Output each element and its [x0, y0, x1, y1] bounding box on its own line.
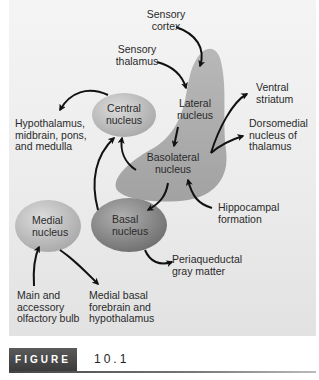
dorsomedial-label-line: thalamus — [249, 141, 308, 153]
sensory-cortex-label-line: Sensory — [138, 9, 194, 21]
sensory-thalamus-label-line: thalamus — [112, 56, 162, 68]
lateral-nucleus-label-line: Lateral — [170, 98, 220, 110]
periaqueductal-label-line: Periaqueductal — [172, 254, 242, 266]
sensory-cortex-label: Sensory cortex — [138, 9, 194, 32]
medial-basal-label-line: Medial basal — [89, 290, 154, 302]
ventral-striatum-label-line: Ventral — [256, 82, 293, 94]
hippocampal-label-line: formation — [218, 214, 279, 226]
figure-rule-divider — [9, 371, 316, 373]
arrow-basal-to-central — [95, 138, 114, 210]
basal-nucleus-label: Basal nucleus — [112, 214, 148, 237]
olfactory-label-line: olfactory bulb — [17, 313, 79, 325]
olfactory-label-line: Main and — [17, 290, 79, 302]
hypothalamus-label-line: and medulla — [15, 141, 87, 153]
lateral-nucleus-label-line: nucleus — [170, 110, 220, 122]
sensory-thalamus-label: Sensory thalamus — [112, 44, 162, 67]
basolateral-nucleus-label-line: nucleus — [138, 164, 208, 176]
medial-basal-forebrain-label: Medial basal forebrain and hypothalamus — [89, 290, 154, 325]
medial-basal-label-line: hypothalamus — [89, 313, 154, 325]
medial-nucleus-label-line: nucleus — [32, 227, 68, 239]
ventral-striatum-label-line: striatum — [256, 94, 293, 106]
basal-nucleus-label-line: nucleus — [112, 226, 148, 238]
central-nucleus-label: Central nucleus — [104, 103, 144, 126]
hippocampal-label-line: Hippocampal — [218, 202, 279, 214]
arrow-olfactory-to-medial — [34, 247, 39, 286]
figure-tag: FIGURE — [9, 348, 77, 371]
medial-nucleus-label: Medial nucleus — [32, 215, 68, 238]
sensory-thalamus-label-line: Sensory — [112, 44, 162, 56]
periaqueductal-label-line: gray matter — [172, 266, 242, 278]
lateral-nucleus-label: Lateral nucleus — [170, 98, 220, 121]
periaqueductal-gray-label: Periaqueductal gray matter — [172, 254, 242, 277]
basal-nucleus-label-line: Basal — [112, 214, 148, 226]
dorsomedial-thalamus-label: Dorsomedial nucleus of thalamus — [249, 118, 308, 153]
hippocampal-formation-label: Hippocampal formation — [218, 202, 279, 225]
hypothalamus-label-line: Hypothalamus, — [15, 118, 87, 130]
olfactory-bulb-label: Main and accessory olfactory bulb — [17, 290, 79, 325]
sensory-cortex-label-line: cortex — [138, 21, 194, 33]
ventral-striatum-label: Ventral striatum — [256, 82, 293, 105]
central-nucleus-label-line: nucleus — [104, 115, 144, 127]
arrow-medial-to-medial-basal — [60, 250, 98, 284]
basolateral-nucleus-label: Basolateral nucleus — [138, 152, 208, 175]
central-nucleus-label-line: Central — [104, 103, 144, 115]
figure-number: 10.1 — [94, 352, 129, 366]
basolateral-nucleus-label-line: Basolateral — [138, 152, 208, 164]
hypothalamus-midbrain-label: Hypothalamus, midbrain, pons, and medull… — [15, 118, 87, 153]
dorsomedial-label-line: Dorsomedial — [249, 118, 308, 130]
arrow-basal-to-periaqueductal — [145, 250, 172, 264]
medial-nucleus-label-line: Medial — [32, 215, 68, 227]
